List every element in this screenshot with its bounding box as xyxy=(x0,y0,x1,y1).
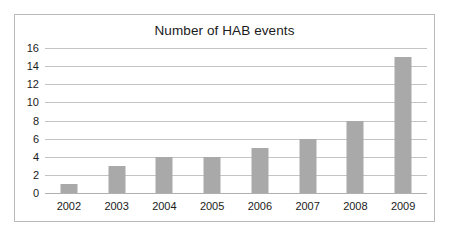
bar-series xyxy=(45,48,427,193)
bar-2008 xyxy=(347,121,364,194)
y-axis-tick-label: 0 xyxy=(33,187,39,199)
bar-2005 xyxy=(204,157,221,193)
y-axis-tick-label: 10 xyxy=(27,96,39,108)
y-axis-tick-label: 12 xyxy=(27,78,39,90)
x-axis-tick-label: 2003 xyxy=(104,200,128,212)
bar-2002 xyxy=(60,184,77,193)
y-axis-tick-label: 4 xyxy=(33,151,39,163)
chart-title: Number of HAB events xyxy=(15,23,434,38)
y-axis-tick-label: 16 xyxy=(27,42,39,54)
y-axis-tick-label: 6 xyxy=(33,133,39,145)
x-axis-tick-label: 2005 xyxy=(200,200,224,212)
plot-area: 0246810121416 20022003200420052006200720… xyxy=(45,48,427,193)
y-axis-tick-label: 14 xyxy=(27,60,39,72)
bar-2004 xyxy=(156,157,173,193)
y-axis-tick-label: 2 xyxy=(33,169,39,181)
y-axis-tick-label: 8 xyxy=(33,115,39,127)
bar-2006 xyxy=(251,148,268,193)
bar-2003 xyxy=(108,166,125,193)
bar-2009 xyxy=(395,57,412,193)
x-axis-tick-label: 2007 xyxy=(295,200,319,212)
x-axis-tick-label: 2009 xyxy=(391,200,415,212)
x-axis-tick-label: 2002 xyxy=(57,200,81,212)
x-axis-tick-label: 2004 xyxy=(152,200,176,212)
x-axis-tick-label: 2006 xyxy=(248,200,272,212)
x-axis-tick-label: 2008 xyxy=(343,200,367,212)
gridline xyxy=(45,193,427,194)
chart-frame: Number of HAB events 0246810121416 20022… xyxy=(14,14,435,222)
bar-2007 xyxy=(299,139,316,193)
